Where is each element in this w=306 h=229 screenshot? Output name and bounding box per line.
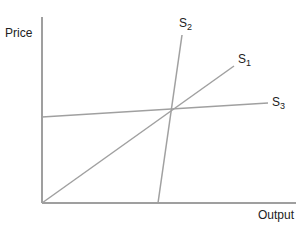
y-axis-label: Price — [5, 26, 33, 40]
supply-curves-diagram: Price Output S2 S1 S3 — [0, 0, 306, 229]
s1-label: S1 — [238, 52, 251, 68]
s2-label: S2 — [179, 16, 192, 32]
s3-label: S3 — [272, 95, 285, 111]
s1-curve — [42, 66, 234, 203]
s3-curve — [42, 103, 268, 117]
x-axis-label: Output — [258, 208, 295, 222]
s2-curve — [158, 35, 182, 203]
